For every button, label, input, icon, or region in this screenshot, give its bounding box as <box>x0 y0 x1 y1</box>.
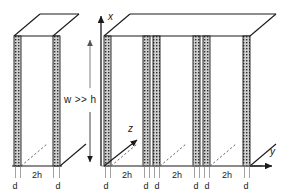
wall-strip <box>193 36 200 166</box>
y-axis-label: y <box>269 146 276 157</box>
wall-strip <box>243 36 250 166</box>
label-2h: 2h <box>222 170 232 180</box>
main-block <box>104 14 276 178</box>
label-d: d <box>204 181 209 191</box>
left-block-depth-edges <box>14 14 79 36</box>
label-d: d <box>103 181 108 191</box>
x-axis-label: x <box>107 11 114 22</box>
label-d: d <box>143 181 148 191</box>
wall-strip <box>143 36 150 166</box>
depth-edge <box>53 14 79 36</box>
main-block-depth-edges <box>104 14 276 36</box>
microchannel-diagram: x y z w >> h d 2h d d 2h d d <box>0 0 282 195</box>
bottom-dimension-labels: d 2h d d 2h d d 2h d d 2h d <box>12 170 248 191</box>
depth-edge <box>250 14 276 36</box>
diagram-canvas: x y z w >> h d 2h d d 2h d d <box>0 0 282 195</box>
depth-edge <box>14 14 40 36</box>
wall-strip <box>53 36 60 166</box>
z-axis-label: z <box>127 123 133 134</box>
wall-strip <box>203 36 210 166</box>
aspect-ratio-label: w >> h <box>63 94 96 105</box>
main-block-walls <box>104 36 250 166</box>
label-d: d <box>193 181 198 191</box>
bottom-depth-edge <box>60 144 86 166</box>
label-d: d <box>243 181 248 191</box>
label-2h: 2h <box>122 170 132 180</box>
label-2h: 2h <box>172 170 182 180</box>
wall-strip <box>153 36 160 166</box>
bottom-depth-edge-hidden <box>210 144 236 166</box>
wall-strip <box>14 36 21 166</box>
main-block-hidden-edges <box>111 144 236 166</box>
wall-strip <box>104 36 111 166</box>
bottom-depth-edge-hidden <box>111 144 137 166</box>
bottom-depth-edge-hidden <box>160 144 186 166</box>
label-2h: 2h <box>32 170 42 180</box>
label-d: d <box>12 181 17 191</box>
left-block-walls <box>14 36 60 166</box>
aspect-ratio-annotation: w >> h <box>63 40 96 162</box>
label-d: d <box>55 181 60 191</box>
label-d: d <box>154 181 159 191</box>
bottom-depth-edge-hidden <box>21 144 47 166</box>
